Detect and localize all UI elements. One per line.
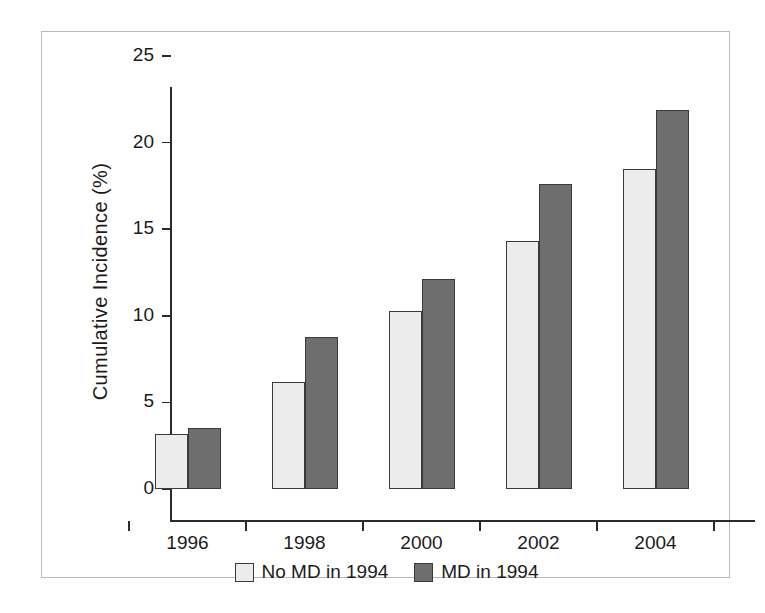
legend-label: No MD in 1994 <box>262 561 389 583</box>
chart-legend: No MD in 1994MD in 1994 <box>42 561 731 583</box>
x-axis-tick <box>596 521 598 531</box>
x-axis-tick <box>713 521 715 531</box>
y-axis-tick-label: 15 <box>94 217 154 239</box>
y-axis-tick-label: 0 <box>94 477 154 499</box>
x-axis-tick-label: 1996 <box>128 532 248 554</box>
bar-2002-no-md <box>506 241 539 489</box>
y-axis-tick <box>162 315 171 317</box>
bar-1998-md <box>305 337 338 489</box>
bar-2004-md <box>656 110 689 489</box>
bar-2002-md <box>539 184 572 489</box>
x-axis-tick <box>479 521 481 531</box>
y-axis-tick-label: 20 <box>94 131 154 153</box>
x-axis-tick <box>362 521 364 531</box>
x-axis-tick-label: 2004 <box>596 532 716 554</box>
plot-frame: Cumulative Incidence (%) 0510152025 1996… <box>41 31 730 578</box>
y-axis-tick <box>162 402 171 404</box>
x-axis-tick-label: 2002 <box>479 532 599 554</box>
bar-2000-md <box>422 279 455 489</box>
bar-1998-no-md <box>272 382 305 489</box>
legend-label: MD in 1994 <box>441 561 538 583</box>
y-axis-tick-label: 10 <box>94 304 154 326</box>
x-axis-tick-label: 1998 <box>245 532 365 554</box>
bar-1996-no-md <box>155 434 188 489</box>
bar-2004-no-md <box>623 169 656 489</box>
y-axis-tick <box>162 55 171 57</box>
x-axis-line <box>170 520 755 522</box>
bar-2000-no-md <box>389 311 422 489</box>
legend-entry: No MD in 1994 <box>235 561 389 583</box>
light-swatch <box>235 563 254 582</box>
x-axis-tick <box>128 521 130 531</box>
y-axis-tick <box>162 228 171 230</box>
bar-1996-md <box>188 428 221 489</box>
y-axis-tick-label: 5 <box>94 390 154 412</box>
legend-entry: MD in 1994 <box>414 561 538 583</box>
figure-canvas: Cumulative Incidence (%) 0510152025 1996… <box>0 0 765 613</box>
y-axis-tick <box>162 142 171 144</box>
dark-swatch <box>414 563 433 582</box>
y-axis-tick-label: 25 <box>94 44 154 66</box>
x-axis-tick-label: 2000 <box>362 532 482 554</box>
x-axis-tick <box>245 521 247 531</box>
